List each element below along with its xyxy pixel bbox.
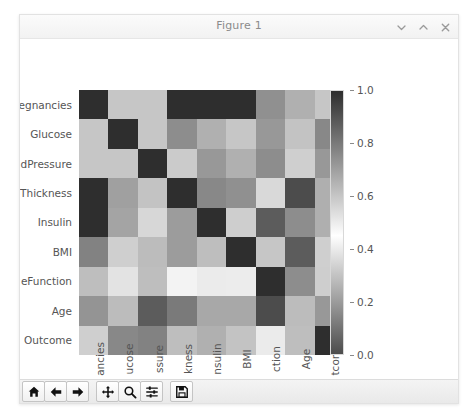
heatmap-cell — [197, 267, 226, 296]
home-button[interactable] — [22, 381, 45, 402]
navigation-toolbar — [20, 379, 458, 403]
heatmap-cell — [256, 149, 285, 178]
colorbar-tick-text: 0.0 — [357, 349, 374, 361]
colorbar-tick-mark — [350, 196, 354, 197]
window-titlebar[interactable]: Figure 1 — [20, 15, 458, 39]
heatmap-cell — [167, 149, 196, 178]
colorbar — [330, 90, 344, 355]
heatmap-cell — [138, 119, 167, 148]
heatmap-cell — [108, 267, 137, 296]
y-axis-tick-labels: egnanciesGlucosedPressureThicknessInsuli… — [20, 90, 77, 355]
y-tick-label: Glucose — [20, 119, 77, 148]
heatmap-cell — [256, 237, 285, 266]
x-tick-label: ssure — [153, 345, 165, 373]
colorbar-tick-text: 0.8 — [357, 137, 374, 149]
subplots-button[interactable] — [140, 381, 163, 402]
x-tick-label-slot: ancies — [79, 355, 108, 381]
x-tick-label-slot: ssure — [138, 355, 167, 381]
colorbar-tick-mark — [350, 355, 354, 356]
x-tick-label: ucose — [123, 344, 135, 375]
heatmap-cell — [197, 208, 226, 237]
pan-button[interactable] — [96, 381, 119, 402]
heatmap-cell — [285, 267, 314, 296]
x-tick-label-slot: ction — [256, 355, 285, 381]
heatmap-grid[interactable] — [79, 90, 344, 355]
heatmap-cell — [256, 119, 285, 148]
heatmap-cell — [108, 90, 137, 119]
heatmap-cell — [226, 119, 255, 148]
x-tick-label: Age — [300, 349, 312, 369]
heatmap-cell — [167, 237, 196, 266]
colorbar-tick: 0.0 — [350, 349, 374, 361]
heatmap-cell — [108, 296, 137, 325]
colorbar-gradient — [330, 90, 344, 355]
window-title: Figure 1 — [20, 19, 458, 32]
heatmap-cell — [226, 267, 255, 296]
x-axis-tick-labels: anciesucosessureknessnsulinBMIctionAgetc… — [79, 355, 344, 381]
y-tick-label: egnancies — [20, 90, 77, 119]
y-tick-label: Thickness — [20, 178, 77, 207]
home-icon — [27, 385, 41, 399]
heatmap-cell — [138, 149, 167, 178]
minimize-button[interactable] — [395, 21, 408, 34]
y-tick-label: dPressure — [20, 149, 77, 178]
colorbar-tick-labels: 0.00.20.40.60.81.0 — [350, 90, 410, 355]
save-button[interactable] — [170, 381, 193, 402]
colorbar-tick: 0.8 — [350, 137, 374, 149]
heatmap-cell — [79, 267, 108, 296]
colorbar-tick-text: 0.2 — [357, 296, 374, 308]
heatmap-cell — [285, 149, 314, 178]
heatmap-cell — [197, 90, 226, 119]
figure-canvas[interactable]: egnanciesGlucosedPressureThicknessInsuli… — [20, 39, 458, 381]
x-tick-label-slot: tcome — [315, 355, 344, 381]
heatmap-cell — [256, 90, 285, 119]
colorbar-tick: 1.0 — [350, 84, 374, 96]
heatmap-cell — [197, 178, 226, 207]
back-button[interactable] — [44, 381, 67, 402]
x-tick-label: ction — [270, 346, 282, 372]
colorbar-tick-mark — [350, 302, 354, 303]
x-tick-label: kness — [182, 344, 194, 374]
arrow-right-icon — [71, 385, 85, 399]
heatmap-cell — [285, 237, 314, 266]
colorbar-tick: 0.4 — [350, 243, 374, 255]
heatmap-cell — [138, 267, 167, 296]
heatmap-cell — [256, 267, 285, 296]
heatmap-cell — [167, 296, 196, 325]
heatmap-cell — [226, 208, 255, 237]
heatmap-cell — [79, 119, 108, 148]
heatmap-cell — [138, 237, 167, 266]
x-tick-label-slot: nsulin — [197, 355, 226, 381]
heatmap-cell — [108, 178, 137, 207]
heatmap-cell — [285, 296, 314, 325]
colorbar-tick-text: 1.0 — [357, 84, 374, 96]
heatmap-cell — [79, 237, 108, 266]
heatmap-cell — [79, 208, 108, 237]
arrow-left-icon — [49, 385, 63, 399]
magnifier-icon — [123, 385, 137, 399]
floppy-disk-icon — [175, 385, 189, 399]
heatmap-cell — [108, 149, 137, 178]
forward-button[interactable] — [66, 381, 89, 402]
heatmap-cell — [167, 178, 196, 207]
heatmap-cell — [197, 149, 226, 178]
heatmap-cell — [285, 178, 314, 207]
y-tick-label: eFunction — [20, 267, 77, 296]
heatmap-cell — [79, 149, 108, 178]
y-tick-label: Insulin — [20, 208, 77, 237]
heatmap-cell — [138, 296, 167, 325]
colorbar-tick-text: 0.6 — [357, 190, 374, 202]
x-tick-label-slot: kness — [167, 355, 196, 381]
heatmap-cell — [138, 178, 167, 207]
x-tick-label-slot: BMI — [226, 355, 255, 381]
x-tick-label: ancies — [94, 342, 106, 376]
colorbar-tick-mark — [350, 90, 354, 91]
toolbar-separator — [88, 381, 96, 402]
heatmap-cell — [138, 90, 167, 119]
zoom-button[interactable] — [118, 381, 141, 402]
heatmap-cell — [226, 90, 255, 119]
y-tick-label: BMI — [20, 237, 77, 266]
colorbar-tick-mark — [350, 249, 354, 250]
maximize-button[interactable] — [417, 21, 430, 34]
close-button[interactable] — [439, 21, 452, 34]
